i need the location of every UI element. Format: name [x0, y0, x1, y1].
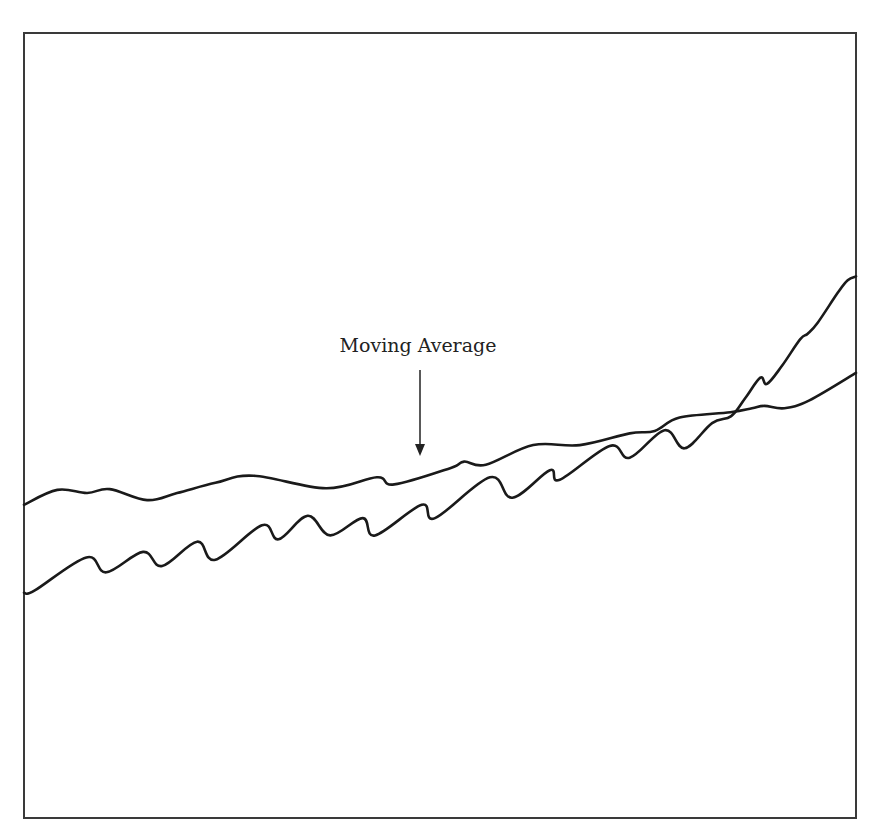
moving-average-annotation-label: Moving Average [340, 334, 497, 356]
plot-frame [24, 33, 856, 818]
line-chart: Moving Average [0, 0, 876, 834]
price-line [24, 276, 856, 593]
moving-average-line [24, 373, 856, 505]
down-arrow-icon [415, 444, 425, 456]
